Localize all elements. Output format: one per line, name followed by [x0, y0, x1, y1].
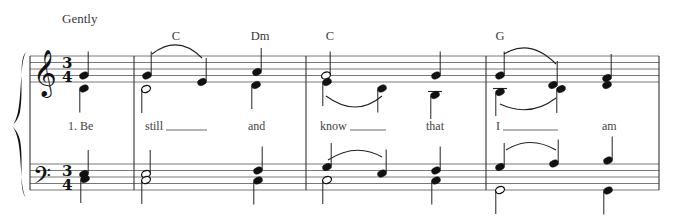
lyric-syllable: I: [496, 119, 500, 133]
chord-symbol: C: [172, 29, 180, 43]
tempo-marking: Gently: [62, 11, 98, 26]
note: [428, 90, 442, 119]
note: [321, 77, 332, 106]
lyric-syllable: know: [320, 119, 347, 133]
slur: [506, 143, 556, 151]
note: [78, 84, 89, 113]
note: [79, 174, 90, 203]
chord-symbols: CDmCG: [172, 29, 505, 43]
slur: [328, 150, 382, 160]
lyric-syllable: still: [145, 119, 164, 133]
note: [252, 147, 263, 176]
sheet-music-score: Gently CDmCG 𝄞 𝄢 3 4 3 4 1. Bestillandkn…: [0, 0, 682, 222]
treble-clef-icon: 𝄞: [33, 49, 57, 98]
note: [602, 137, 613, 166]
lyric-syllable: that: [426, 119, 445, 133]
note: [321, 143, 332, 172]
lyric-syllable: am: [602, 119, 617, 133]
note: [493, 87, 507, 116]
lyrics: 1. BestillandknowthatIam: [68, 119, 617, 133]
note: [602, 186, 613, 215]
note: [430, 147, 441, 176]
note: [555, 84, 566, 113]
note: [548, 140, 559, 169]
note: [250, 80, 261, 109]
treble-time-denominator: 4: [62, 68, 72, 86]
note: [494, 185, 505, 214]
slur: [326, 96, 382, 107]
note: [601, 54, 612, 83]
bass-clef-icon: 𝄢: [33, 162, 51, 195]
chord-symbol: C: [326, 29, 334, 43]
clefs: 𝄞 𝄢: [33, 49, 57, 195]
chord-symbol: Dm: [251, 29, 270, 43]
lyric-syllable: 1. Be: [68, 119, 93, 133]
note: [494, 143, 505, 172]
note: [376, 84, 387, 113]
note: [140, 84, 151, 113]
slur: [500, 98, 556, 110]
bass-time-denominator: 4: [62, 176, 72, 194]
lyric-syllable: and: [248, 119, 265, 133]
grand-staff-brace-icon: [12, 52, 26, 198]
chord-symbol: G: [495, 29, 504, 43]
